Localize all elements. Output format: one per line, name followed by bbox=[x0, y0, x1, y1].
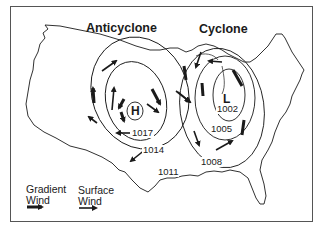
isobar-label-1014: 1014 bbox=[142, 145, 165, 155]
isobar-label-1011: 1011 bbox=[157, 167, 179, 177]
high-pressure-center: H bbox=[131, 105, 140, 117]
legend-gradient-line2: Wind bbox=[26, 195, 66, 206]
isobar-label-1002: 1002 bbox=[216, 104, 239, 114]
us-outline bbox=[26, 25, 304, 204]
legend-surface-line2: Wind bbox=[78, 196, 114, 207]
legend-gradient-wind: Gradient Wind bbox=[26, 184, 66, 206]
isobar-label-1017: 1017 bbox=[131, 128, 154, 138]
anticyclone-gradient-winds bbox=[93, 88, 160, 121]
cyclone-title: Cyclone bbox=[199, 23, 248, 36]
weather-diagram: Anticyclone Cyclone H L 1017 1014 1011 1… bbox=[0, 0, 322, 234]
anticyclone-title: Anticyclone bbox=[86, 22, 157, 35]
legend-surface-wind: Surface Wind bbox=[78, 185, 114, 207]
isobar-label-1008: 1008 bbox=[200, 157, 223, 167]
isobar-label-1005: 1005 bbox=[210, 124, 233, 134]
